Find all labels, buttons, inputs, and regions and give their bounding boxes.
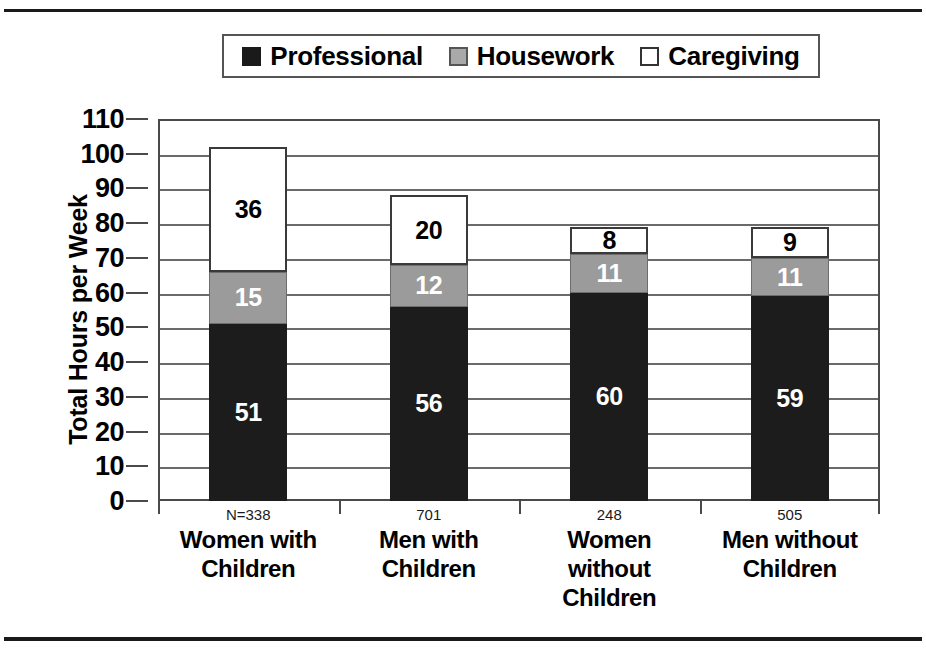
bar-segment-caregiving[interactable]: 8 <box>570 227 648 255</box>
y-tick-label: 40 <box>95 347 124 378</box>
black-square-swatch <box>242 47 261 66</box>
y-tick-mark <box>126 431 148 433</box>
bar-segment-caregiving[interactable]: 20 <box>390 195 468 264</box>
white-square-swatch <box>640 47 659 66</box>
category-name-line: Men without <box>700 525 880 554</box>
legend-label-caregiving: Caregiving <box>668 41 799 72</box>
y-tick-mark <box>126 361 148 363</box>
category-name-line: Children <box>700 554 880 583</box>
bar-group[interactable]: 511536 <box>209 147 287 501</box>
y-tick-label: 30 <box>95 381 124 412</box>
category-name-line: without <box>519 554 699 583</box>
legend-item-housework: Housework <box>449 41 614 72</box>
top-divider-rule <box>4 9 922 12</box>
y-tick-label: 70 <box>95 242 124 273</box>
y-axis-ticks: 1101009080706050403020100 <box>0 119 158 501</box>
category-name-line: Men with <box>339 525 519 554</box>
bar-segment-professional[interactable]: 59 <box>751 296 829 501</box>
y-tick-mark <box>126 222 148 224</box>
bars-layer: 5115365612206011859119 <box>158 119 880 501</box>
y-tick-label: 90 <box>95 173 124 204</box>
y-tick-mark <box>126 465 148 467</box>
bar-segment-professional[interactable]: 51 <box>209 324 287 501</box>
y-tick-mark <box>126 500 148 502</box>
y-tick-label: 10 <box>95 451 124 482</box>
y-tick-mark <box>126 326 148 328</box>
category-name-line: Women <box>519 525 699 554</box>
bar-group[interactable]: 60118 <box>570 227 648 501</box>
chart-legend: Professional Housework Caregiving <box>222 34 820 78</box>
bar-segment-housework[interactable]: 12 <box>390 265 468 307</box>
y-tick-label: 110 <box>82 104 124 135</box>
y-tick-mark <box>126 118 148 120</box>
sample-size-label: 701 <box>339 505 519 525</box>
y-tick-label: 0 <box>109 486 124 517</box>
sample-size-label: 248 <box>519 505 699 525</box>
legend-item-caregiving: Caregiving <box>640 41 799 72</box>
bar-segment-professional[interactable]: 56 <box>390 307 468 501</box>
bar-segment-housework[interactable]: 11 <box>570 254 648 292</box>
category-name-line: Children <box>339 554 519 583</box>
gray-square-swatch <box>449 47 468 66</box>
bottom-divider-rule <box>4 637 922 641</box>
category-name-line: Children <box>519 583 699 612</box>
bar-group[interactable]: 59119 <box>751 227 829 501</box>
bar-segment-housework[interactable]: 11 <box>751 258 829 296</box>
bar-group[interactable]: 561220 <box>390 195 468 501</box>
y-tick-label: 80 <box>95 208 124 239</box>
y-tick-label: 20 <box>95 416 124 447</box>
bar-segment-professional[interactable]: 60 <box>570 293 648 501</box>
y-tick-mark <box>126 153 148 155</box>
y-tick-mark <box>126 187 148 189</box>
sample-size-label: 505 <box>700 505 880 525</box>
y-tick-label: 60 <box>95 277 124 308</box>
category-name-line: Women with <box>158 525 338 554</box>
bar-segment-caregiving[interactable]: 9 <box>751 227 829 258</box>
legend-label-professional: Professional <box>270 41 422 72</box>
y-tick-mark <box>126 257 148 259</box>
x-axis-label-group: 701Men withChildren <box>339 505 519 583</box>
bar-segment-housework[interactable]: 15 <box>209 272 287 324</box>
x-axis-label-group: N=338Women withChildren <box>158 505 338 583</box>
category-name-line: Children <box>158 554 338 583</box>
legend-item-professional: Professional <box>242 41 422 72</box>
sample-size-label: N=338 <box>158 505 338 525</box>
y-tick-mark <box>126 292 148 294</box>
legend-label-housework: Housework <box>477 41 614 72</box>
x-axis-label-group: 505Men withoutChildren <box>700 505 880 583</box>
bar-segment-caregiving[interactable]: 36 <box>209 147 287 272</box>
x-axis-labels: N=338Women withChildren701Men withChildr… <box>158 505 880 635</box>
y-tick-label: 50 <box>95 312 124 343</box>
y-tick-label: 100 <box>80 138 124 169</box>
x-axis-label-group: 248WomenwithoutChildren <box>519 505 699 612</box>
y-tick-mark <box>126 396 148 398</box>
